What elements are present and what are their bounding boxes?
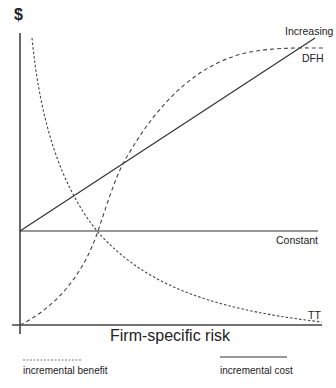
dfh-benefit-curve (20, 48, 326, 325)
y-axis-label: $ (14, 6, 23, 24)
x-axis-label: Firm-specific risk (0, 327, 336, 345)
tt-label: TT (308, 309, 321, 321)
dfh-label: DFH (302, 52, 324, 64)
legend-cost-label: incremental cost (220, 365, 293, 376)
constant-label: Constant (276, 234, 318, 246)
tt-benefit-curve (32, 38, 322, 322)
legend-benefit-label: incremental benefit (23, 365, 108, 376)
increasing-label: Increasing (285, 25, 333, 37)
increasing-cost-line (20, 38, 315, 231)
